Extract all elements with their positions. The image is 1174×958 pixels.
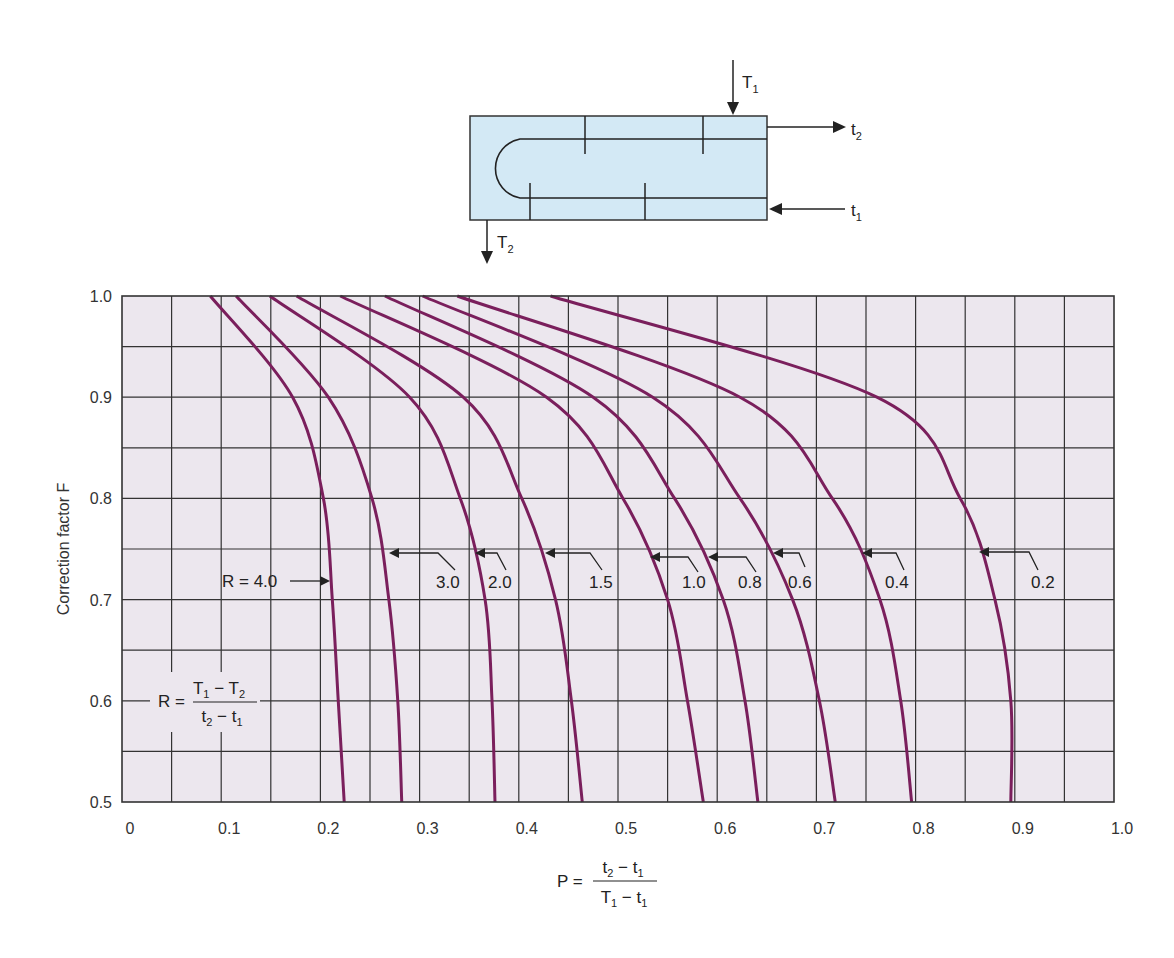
x-tick-label: 0.5 [615, 820, 637, 837]
shell-body [470, 116, 767, 220]
x-tick-label: 0.8 [912, 820, 934, 837]
svg-text:0.8: 0.8 [738, 573, 762, 592]
y-tick-label: 0.7 [90, 592, 112, 609]
svg-text:t2 − t1: t2 − t1 [602, 858, 643, 879]
y-axis-title: Correction factor F [55, 483, 72, 616]
label-t2: t2 [851, 120, 862, 142]
y-tick-label: 1.0 [90, 288, 112, 305]
svg-text:0.2: 0.2 [1031, 573, 1055, 592]
x-tick-label: 0.4 [516, 820, 538, 837]
svg-text:2.0: 2.0 [488, 573, 512, 592]
svg-text:R =: R = [158, 692, 185, 711]
svg-text:T1 − T2: T1 − T2 [193, 679, 245, 700]
svg-text:T1 − t1: T1 − t1 [601, 888, 648, 909]
y-axis-ticks: 0.50.60.70.80.91.0 [90, 288, 112, 811]
label-T2: T2 [497, 233, 514, 255]
svg-text:0.6: 0.6 [788, 573, 812, 592]
x-tick-label: 0.2 [317, 820, 339, 837]
x-tick-label: 0.6 [714, 820, 736, 837]
p-formula: P = t2 − t1 T1 − t1 [557, 858, 657, 909]
heat-exchanger-diagram: T1 t2 t1 T2 [470, 60, 862, 264]
y-tick-label: 0.5 [90, 794, 112, 811]
t1-tube-inlet-arrow-icon [769, 203, 845, 215]
t2-tube-outlet-arrow-icon [767, 121, 846, 133]
r-formula: R = T1 − T2 t2 − t1 [150, 672, 260, 732]
svg-text:R = 4.0: R = 4.0 [222, 572, 277, 591]
svg-text:P =: P = [557, 872, 583, 891]
y-tick-label: 0.6 [90, 693, 112, 710]
x-tick-label: 0.1 [218, 820, 240, 837]
x-tick-label: 1.0 [1111, 820, 1133, 837]
svg-text:0.4: 0.4 [885, 573, 909, 592]
y-tick-label: 0.8 [90, 490, 112, 507]
t1-shell-inlet-arrow-icon [727, 60, 739, 115]
svg-text:1.0: 1.0 [682, 573, 706, 592]
label-T1: T1 [742, 73, 759, 95]
x-tick-label: 0.7 [813, 820, 835, 837]
y-tick-label: 0.9 [90, 389, 112, 406]
svg-text:3.0: 3.0 [436, 573, 460, 592]
label-t1: t1 [851, 201, 862, 223]
x-tick-label: 0.3 [416, 820, 438, 837]
grid-lines [122, 296, 1114, 802]
x-tick-label: 0.9 [1012, 820, 1034, 837]
x-axis-ticks: 00.10.20.30.40.50.60.70.80.91.0 [126, 820, 1134, 837]
x-tick-label: 0 [126, 820, 135, 837]
t2-shell-outlet-arrow-icon [481, 220, 493, 264]
correction-factor-chart: T1 t2 t1 T2 00.10.20.30.40.50.60.70.80.9… [0, 0, 1174, 958]
svg-text:1.5: 1.5 [589, 573, 613, 592]
